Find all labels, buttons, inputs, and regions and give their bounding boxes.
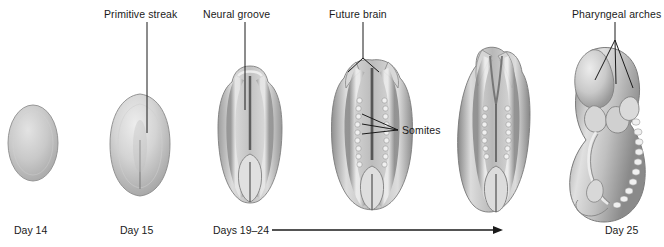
day-label-day-25: Day 25 (605, 224, 638, 236)
stage-day-25-illustration (556, 32, 664, 228)
stage-day-15-illustration (100, 90, 182, 202)
callout-label-future-brain: Future brain (329, 8, 387, 20)
callout-label-neural-groove: Neural groove (203, 8, 270, 20)
day-label-day-15: Day 15 (120, 224, 153, 236)
callout-label-primitive-streak: Primitive streak (104, 8, 177, 20)
embryo-development-figure: Primitive streak Neural groove Future br… (0, 0, 664, 247)
callout-label-pharyngeal-arches: Pharyngeal arches (572, 8, 661, 20)
day-label-days-19-24: Days 19–24 (213, 224, 269, 236)
stage-day-14-illustration (0, 98, 72, 194)
stage-neural-groove-illustration (200, 58, 300, 210)
timeline-arrow (272, 226, 503, 234)
day-label-day-14: Day 14 (14, 224, 47, 236)
callout-label-somites: Somites (402, 124, 441, 136)
stage-closing-tube-illustration (442, 42, 550, 218)
